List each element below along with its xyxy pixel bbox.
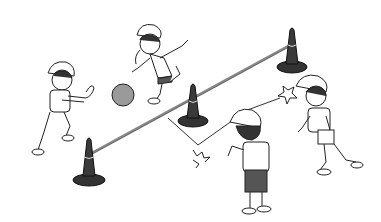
cone-left [73, 138, 105, 186]
cone-middle [178, 84, 208, 127]
illustration-svg [0, 0, 381, 222]
child-top-throwing [132, 24, 188, 104]
child-left-catching [32, 62, 94, 155]
illustration-scene [0, 0, 381, 222]
impact-star-1 [278, 86, 297, 104]
ball [112, 84, 134, 106]
impact-star-2 [193, 150, 210, 168]
child-front-back-view [228, 109, 271, 214]
child-right-running [296, 75, 363, 175]
